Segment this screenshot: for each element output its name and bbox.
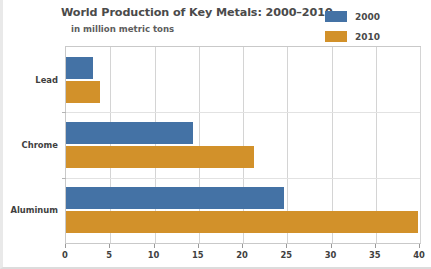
bar-group [66,112,420,177]
x-tick-label: 30 [325,250,337,260]
chart-legend: 20002010 [325,8,423,48]
bar-chrome-2000[interactable] [66,122,193,144]
bar-lead-2000[interactable] [66,57,93,79]
legend-label: 2000 [355,12,380,22]
x-axis: 0510152025303540 [65,244,421,266]
gridline [420,47,421,243]
legend-swatch-icon [325,11,347,22]
chart-title: World Production of Key Metals: 2000–201… [61,6,333,19]
bar-aluminum-2010[interactable] [66,211,418,233]
x-tick-label: 20 [236,250,248,260]
chart-figure: World Production of Key Metals: 2000–201… [0,0,431,269]
category-label-chrome: Chrome [22,140,58,150]
x-tick-label: 10 [148,250,160,260]
bar-lead-2010[interactable] [66,81,100,103]
x-tick-label: 25 [280,250,292,260]
bar-group [66,178,420,243]
category-label-lead: Lead [35,75,58,85]
x-tick-label: 35 [369,250,381,260]
bar-group [66,47,420,112]
x-tick [198,244,199,248]
x-tick-label: 0 [62,250,68,260]
category-label-aluminum: Aluminum [10,205,58,215]
x-tick-label: 15 [192,250,204,260]
x-tick [419,244,420,248]
x-tick [331,244,332,248]
chart-subtitle: in million metric tons [71,24,174,34]
legend-item[interactable]: 2010 [325,28,423,45]
x-tick [242,244,243,248]
plot-area: LeadChromeAluminum [65,46,421,244]
x-tick [109,244,110,248]
legend-swatch-icon [325,31,347,42]
bar-chrome-2010[interactable] [66,146,254,168]
legend-label: 2010 [355,32,380,42]
bar-aluminum-2000[interactable] [66,187,284,209]
legend-item[interactable]: 2000 [325,8,423,25]
x-tick [375,244,376,248]
x-tick-label: 40 [413,250,425,260]
x-tick [154,244,155,248]
x-tick-label: 5 [106,250,112,260]
x-tick [286,244,287,248]
x-tick [65,244,66,248]
